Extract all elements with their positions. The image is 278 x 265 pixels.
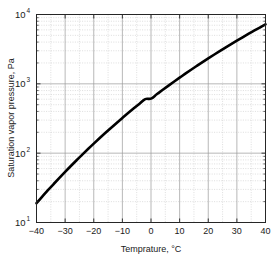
x-tick-label: 30 xyxy=(232,226,242,236)
x-tick-label: −40 xyxy=(29,226,44,236)
svg-text:10: 10 xyxy=(15,148,26,159)
x-tick-label: −10 xyxy=(115,226,130,236)
chart-figure: −40−30−20−10010203040 101102103104 Tempr… xyxy=(0,0,278,265)
x-axis-title: Temprature, °C xyxy=(121,244,182,254)
x-tick-label: 10 xyxy=(175,226,185,236)
x-tick-label: −20 xyxy=(86,226,101,236)
x-tick-label: 0 xyxy=(148,226,153,236)
svg-text:2: 2 xyxy=(27,146,31,153)
svg-text:4: 4 xyxy=(27,7,31,14)
svg-text:1: 1 xyxy=(27,215,31,222)
svg-text:10: 10 xyxy=(15,217,26,228)
x-tick-label: 20 xyxy=(203,226,213,236)
x-tick-label: 40 xyxy=(260,226,270,236)
svg-text:10: 10 xyxy=(15,9,26,20)
saturation-vapor-pressure-chart: −40−30−20−10010203040 101102103104 Tempr… xyxy=(0,0,278,265)
svg-text:10: 10 xyxy=(15,78,26,89)
x-axis-tick-labels: −40−30−20−10010203040 xyxy=(29,226,271,236)
svg-text:3: 3 xyxy=(27,76,31,83)
x-tick-label: −30 xyxy=(57,226,72,236)
y-axis-title: Saturation vapor pressure, Pa xyxy=(6,58,16,178)
